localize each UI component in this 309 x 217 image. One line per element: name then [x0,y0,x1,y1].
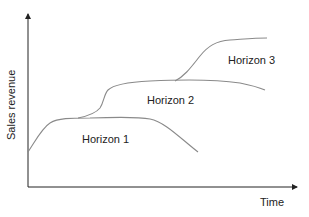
y-axis-label: Sales revenue [5,70,17,140]
three-horizons-diagram: Horizon 1 Horizon 2 Horizon 3 Time Sales… [0,0,309,217]
horizon-1-label: Horizon 1 [82,133,129,145]
horizon-2-label: Horizon 2 [147,94,194,106]
x-axis-label: Time [260,196,284,208]
horizon-3-label: Horizon 3 [228,54,275,66]
